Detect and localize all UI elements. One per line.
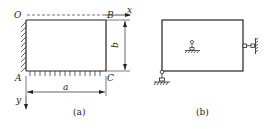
label-y: y [15, 95, 22, 105]
label-A: A [14, 73, 22, 83]
plate-b [162, 20, 243, 71]
dim-a-arrow-right-icon [99, 90, 105, 94]
fixed-support-hatch-icon [21, 22, 26, 72]
caption-a: (a) [73, 107, 85, 117]
dim-a-arrow-left-icon [27, 90, 33, 94]
caption-b: (b) [196, 107, 209, 117]
label-O: O [14, 10, 22, 20]
interior-support-icon [185, 40, 200, 53]
roller-support-icon [243, 38, 258, 54]
label-B: B [106, 10, 114, 20]
label-a: a [63, 82, 68, 92]
label-b: b [110, 42, 120, 48]
label-C: C [107, 73, 114, 83]
label-x: x [127, 5, 132, 15]
dim-b-arrow-bottom-icon [123, 64, 127, 70]
figure-a: O B x A C a b y (a) [14, 5, 132, 117]
simple-support-ticks-icon [30, 71, 100, 76]
dim-b-arrow-top-icon [123, 21, 127, 27]
pin-support-icon [154, 70, 170, 85]
diagram-canvas: O B x A C a b y (a) [0, 0, 270, 129]
figure-b: (b) [154, 20, 258, 117]
y-axis-arrow-icon [24, 104, 28, 110]
